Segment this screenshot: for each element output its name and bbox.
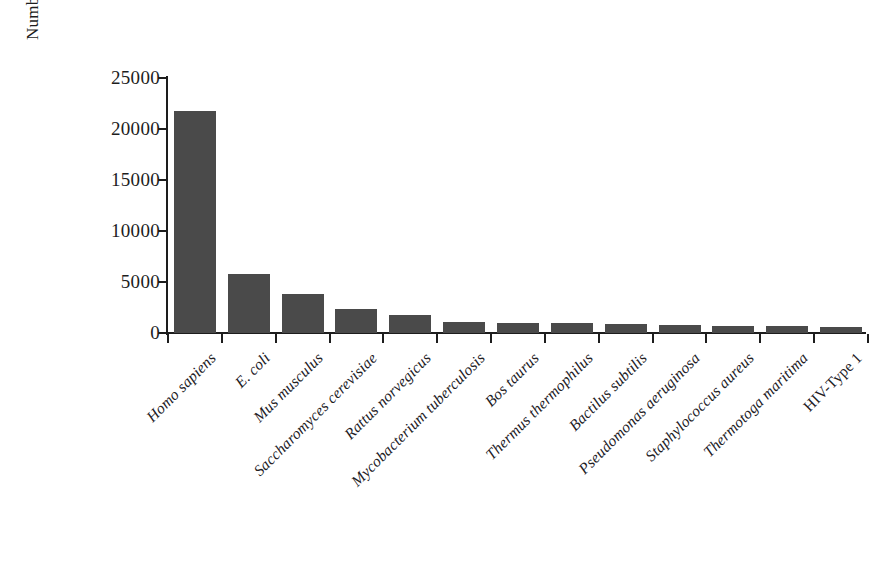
bar-chart: Number of structures deposited 050001000… bbox=[0, 0, 888, 574]
x-tick-label: Homo sapiens bbox=[143, 349, 220, 426]
x-tick-label: Thermotoga maritima bbox=[700, 349, 812, 461]
x-tick-label: E. coli bbox=[231, 349, 273, 391]
x-axis-tick-labels: Homo sapiensE. coliMus musculusSaccharom… bbox=[0, 0, 888, 574]
